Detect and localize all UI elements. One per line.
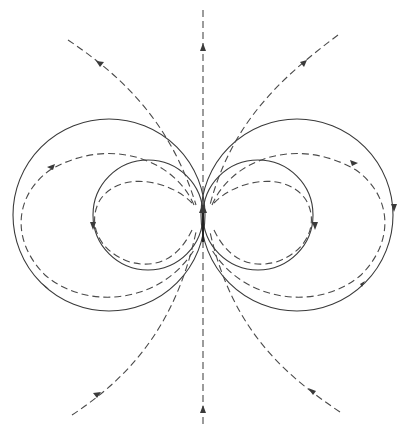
arrow-upper-right-icon (300, 60, 307, 67)
field-lines-svg (0, 0, 403, 432)
solid-circle-large-left (13, 119, 205, 311)
arrow-lower-right-icon (308, 388, 316, 395)
solid-circle-small-left (93, 160, 203, 270)
arrow-outer-right-side-icon (391, 204, 397, 212)
arrow-outer-right-top-icon (350, 160, 358, 166)
dashed-open-line-upper-right (210, 35, 338, 205)
dashed-loop-outer-left (21, 154, 194, 298)
arrow-inner-right-icon (312, 222, 318, 230)
dashed-open-line-lower-left (72, 232, 196, 415)
dashed-open-line-upper-left (68, 40, 196, 205)
arrow-up-axis-bottom-icon (200, 405, 206, 413)
dashed-loop-inner-left (95, 181, 192, 264)
arrow-upper-left-icon (96, 61, 104, 67)
arrow-up-axis-top-icon (200, 43, 206, 51)
dashed-loop-inner-right (214, 181, 311, 264)
dipole-field-diagram (0, 0, 403, 432)
dashed-loop-outer-right (212, 154, 385, 298)
arrow-outer-left-bottom-icon (42, 283, 49, 289)
dashed-open-line-lower-right (210, 232, 340, 412)
dipole-arrow-head-icon (199, 203, 207, 213)
